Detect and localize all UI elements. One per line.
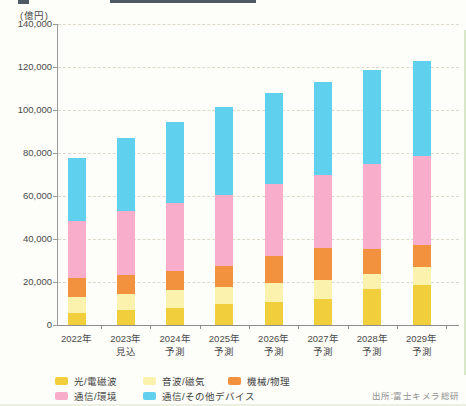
stacked-bar-2022年 xyxy=(68,158,86,325)
stacked-bar-2025年 xyxy=(215,107,233,325)
x-axis-label-2023年: 2023年 xyxy=(99,331,153,345)
x-axis-tickmark xyxy=(249,325,250,329)
legend-label: 通信/環境 xyxy=(74,389,117,403)
bar-segment-2027年-光/電磁波 xyxy=(314,299,332,325)
y-axis-tickmark xyxy=(53,325,57,326)
x-axis-tickmark xyxy=(150,325,151,329)
legend-label: 光/電磁波 xyxy=(74,374,117,388)
bar-segment-2025年-光/電磁波 xyxy=(215,304,233,325)
gridline-140,000 xyxy=(58,24,459,25)
stacked-bar-2023年 xyxy=(117,138,135,325)
bar-segment-2026年-通信/その他デバイス xyxy=(265,93,283,184)
y-axis-tickmark xyxy=(53,282,57,283)
y-axis-tickmark xyxy=(53,67,57,68)
bar-segment-2028年-通信/その他デバイス xyxy=(363,70,381,164)
y-axis-tick-label: 20,000 xyxy=(0,276,52,287)
legend-item-機械/物理: 機械/物理 xyxy=(228,374,290,388)
y-axis-tickmark xyxy=(53,196,57,197)
x-axis-sublabel-2027年: 予測 xyxy=(296,344,350,358)
bar-segment-2029年-通信/その他デバイス xyxy=(413,61,431,157)
bar-segment-2025年-通信/その他デバイス xyxy=(215,107,233,196)
y-axis-tick-label: 60,000 xyxy=(0,190,52,201)
legend-swatch-icon xyxy=(143,392,156,400)
bar-segment-2022年-通信/環境 xyxy=(68,221,86,278)
legend-label: 音波/磁気 xyxy=(162,374,205,388)
y-axis-tick-label: 40,000 xyxy=(0,233,52,244)
stacked-bar-2027年 xyxy=(314,82,332,325)
bar-segment-2025年-機械/物理 xyxy=(215,266,233,287)
bar-segment-2023年-通信/その他デバイス xyxy=(117,138,135,211)
bar-segment-2024年-機械/物理 xyxy=(166,271,184,290)
bar-segment-2024年-光/電磁波 xyxy=(166,308,184,325)
gridline-100,000 xyxy=(58,110,459,111)
legend-swatch-icon xyxy=(55,377,68,385)
x-axis-sublabel-2024年: 予測 xyxy=(148,344,202,358)
x-axis-label-2024年: 2024年 xyxy=(148,331,202,345)
legend-item-通信/その他デバイス: 通信/その他デバイス xyxy=(143,389,255,403)
stacked-bar-2024年 xyxy=(166,122,184,325)
x-axis-sublabel-2025年: 予測 xyxy=(197,344,251,358)
x-axis-tickmark xyxy=(446,325,447,329)
bar-segment-2024年-通信/環境 xyxy=(166,203,184,271)
y-axis-tickmark xyxy=(53,24,57,25)
y-axis-tick-label: 80,000 xyxy=(0,147,52,158)
x-axis-label-2028年: 2028年 xyxy=(345,331,399,345)
bar-segment-2025年-音波/磁気 xyxy=(215,287,233,304)
legend-swatch-icon xyxy=(55,392,68,400)
bar-segment-2029年-光/電磁波 xyxy=(413,285,431,325)
legend-swatch-icon xyxy=(143,377,156,385)
legend-item-通信/環境: 通信/環境 xyxy=(55,389,117,403)
x-axis-tickmark xyxy=(348,325,349,329)
bar-segment-2026年-光/電磁波 xyxy=(265,302,283,325)
bar-segment-2022年-通信/その他デバイス xyxy=(68,158,86,221)
source-attribution: 出所:富士キメラ総研 xyxy=(372,389,460,401)
x-axis-label-2029年: 2029年 xyxy=(395,331,449,345)
bar-segment-2023年-機械/物理 xyxy=(117,275,135,294)
y-axis-tick-label: 0 xyxy=(0,319,52,330)
x-axis-label-2025年: 2025年 xyxy=(197,331,251,345)
bar-segment-2026年-音波/磁気 xyxy=(265,283,283,302)
bar-segment-2027年-音波/磁気 xyxy=(314,280,332,298)
bar-segment-2024年-音波/磁気 xyxy=(166,290,184,308)
bar-segment-2028年-通信/環境 xyxy=(363,164,381,248)
bar-segment-2028年-光/電磁波 xyxy=(363,289,381,325)
bar-segment-2028年-音波/磁気 xyxy=(363,274,381,289)
legend-label: 機械/物理 xyxy=(247,374,290,388)
legend-label: 通信/その他デバイス xyxy=(162,389,255,403)
y-axis-tickmark xyxy=(53,153,57,154)
bar-segment-2023年-通信/環境 xyxy=(117,211,135,274)
bar-segment-2022年-機械/物理 xyxy=(68,278,86,297)
bar-segment-2027年-通信/環境 xyxy=(314,175,332,249)
x-axis-sublabel-2026年: 予測 xyxy=(247,344,301,358)
y-axis-tick-label: 140,000 xyxy=(0,18,52,29)
legend-item-光/電磁波: 光/電磁波 xyxy=(55,374,117,388)
legend-swatch-icon xyxy=(228,377,241,385)
plot-area xyxy=(57,24,459,326)
bar-segment-2028年-機械/物理 xyxy=(363,249,381,274)
bar-segment-2024年-通信/その他デバイス xyxy=(166,122,184,203)
bar-segment-2029年-通信/環境 xyxy=(413,156,431,244)
bar-segment-2029年-音波/磁気 xyxy=(413,267,431,285)
bar-segment-2023年-光/電磁波 xyxy=(117,310,135,325)
chart-page: (億円) 140,000120,000100,00080,00060,00040… xyxy=(0,0,466,406)
x-axis-tickmark xyxy=(298,325,299,329)
x-axis-sublabel-2029年: 予測 xyxy=(395,344,449,358)
legend-item-音波/磁気: 音波/磁気 xyxy=(143,374,205,388)
stacked-bar-2029年 xyxy=(413,61,431,325)
cropped-title-bullet xyxy=(18,0,29,4)
stacked-bar-2026年 xyxy=(265,93,283,325)
x-axis-label-2026年: 2026年 xyxy=(247,331,301,345)
gridline-120,000 xyxy=(58,67,459,68)
x-axis-tickmark xyxy=(101,325,102,329)
bar-segment-2029年-機械/物理 xyxy=(413,245,431,267)
bar-segment-2026年-通信/環境 xyxy=(265,184,283,257)
y-axis-tickmark xyxy=(53,239,57,240)
bar-segment-2026年-機械/物理 xyxy=(265,256,283,282)
y-axis-tickmark xyxy=(53,110,57,111)
cropped-title-remnant xyxy=(110,0,256,3)
bar-segment-2027年-機械/物理 xyxy=(314,248,332,280)
bar-segment-2022年-音波/磁気 xyxy=(68,297,86,313)
stacked-bar-2028年 xyxy=(363,70,381,325)
y-axis-tick-label: 120,000 xyxy=(0,61,52,72)
y-axis-tick-label: 100,000 xyxy=(0,104,52,115)
